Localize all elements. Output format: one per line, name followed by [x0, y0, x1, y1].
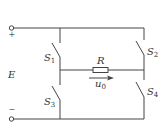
s3-switch-blade: [52, 86, 60, 100]
s4-label: S4: [147, 86, 159, 99]
s2-switch-blade: [136, 41, 144, 55]
resistor-r: [93, 68, 108, 73]
output-voltage-label: u0: [95, 78, 106, 91]
bridge-circuit-diagram: + − E S1 S2 S3 S4 R u0: [0, 0, 161, 131]
s1-switch-blade: [52, 43, 60, 57]
negative-terminal: [9, 117, 13, 121]
resistor-label: R: [96, 55, 105, 66]
source-label-e: E: [7, 69, 16, 80]
s1-label: S1: [44, 52, 55, 65]
negative-sign: −: [9, 105, 16, 114]
s2-label: S2: [147, 46, 158, 59]
s4-switch-blade: [136, 82, 144, 97]
s3-label: S3: [44, 96, 55, 109]
positive-sign: +: [9, 30, 16, 39]
